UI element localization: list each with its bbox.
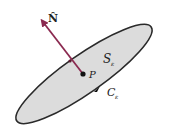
normal-label: N̂	[48, 12, 58, 25]
diagram-canvas: N̂ S ε P C ε	[0, 0, 169, 138]
surface-subscript: ε	[111, 60, 114, 67]
curve-subscript: ε	[115, 93, 118, 100]
point-label: P	[88, 69, 96, 80]
boundary-crossing-dot	[68, 59, 71, 62]
surface-label: S	[103, 52, 111, 66]
point-p-dot	[80, 71, 85, 76]
